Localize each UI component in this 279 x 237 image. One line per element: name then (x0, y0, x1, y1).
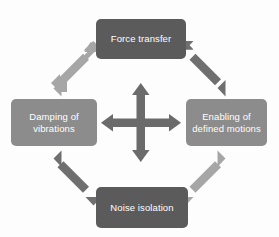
diagram-canvas: Force transfer Damping of vibrations Ena… (0, 0, 279, 237)
diagonal-bottom-left-arrow (54, 151, 102, 206)
node-noise-isolation-label: Noise isolation (110, 202, 173, 214)
node-force-transfer-label: Force transfer (111, 33, 172, 45)
node-damping-of-vibrations[interactable]: Damping of vibrations (11, 99, 97, 146)
node-noise-isolation[interactable]: Noise isolation (96, 187, 188, 228)
node-enabling-of-defined-motions-label: Enabling of defined motions (192, 111, 261, 135)
center-four-way-arrow (101, 83, 181, 162)
diagonal-top-left-arrow (51, 41, 102, 97)
node-damping-of-vibrations-label: Damping of vibrations (29, 111, 79, 135)
node-enabling-of-defined-motions[interactable]: Enabling of defined motions (186, 99, 267, 146)
node-force-transfer[interactable]: Force transfer (96, 19, 186, 59)
